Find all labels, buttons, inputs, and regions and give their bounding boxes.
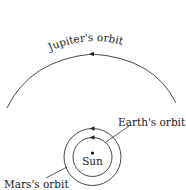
earth-orbit-arrow-icon <box>90 135 95 139</box>
sun-label: Sun <box>82 155 103 167</box>
orbit-diagram: Jupiter's orbit Sun Earth's orbit Mars's… <box>0 0 186 190</box>
jupiter-orbit-arrow-icon <box>89 52 94 56</box>
earth-orbit-label: Earth's orbit <box>118 116 186 128</box>
jupiter-orbit-label: Jupiter's orbit <box>45 31 125 53</box>
jupiter-orbit <box>7 54 176 108</box>
mars-leader-line <box>46 167 67 178</box>
mars-orbit-label: Mars's orbit <box>4 178 69 190</box>
mars-orbit-arrow-icon <box>90 126 95 130</box>
